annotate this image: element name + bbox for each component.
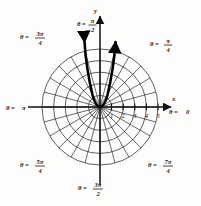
angle-label-pi-over-2-theta: θ = (77, 20, 86, 27)
angle-label-3pi-over-2-theta: θ = (78, 184, 87, 191)
angle-label-pi-over-4-denominator: 4 (165, 46, 170, 53)
angle-label-3pi-over-2-denominator: 2 (95, 190, 100, 197)
polar-chart-svg: 1 2 3 4 5 y x θ = π 2 θ = 3π 4 (0, 0, 201, 206)
angle-label-5pi-over-4: θ = 5π 4 (20, 158, 45, 174)
x-axis-label: x (171, 95, 176, 103)
angle-label-7pi-over-4: θ = 7π 4 (148, 158, 173, 174)
angle-label-5pi-over-4-denominator: 4 (37, 167, 42, 174)
radial-tick-label-4: 4 (145, 112, 149, 119)
angle-label-pi-value: π (22, 104, 26, 111)
angle-label-pi-over-4: θ = π 4 (150, 37, 172, 53)
angle-label-7pi-over-4-denominator: 4 (165, 167, 170, 174)
angle-label-0-value: 0 (186, 108, 190, 115)
angle-label-5pi-over-4-theta: θ = (20, 161, 29, 168)
angle-label-3pi-over-4-denominator: 4 (37, 39, 42, 46)
polar-plot-figure: 1 2 3 4 5 y x θ = π 2 θ = 3π 4 (0, 0, 201, 206)
radial-tick-label-3: 3 (132, 112, 137, 119)
angle-label-pi-over-2-denominator: 2 (90, 26, 95, 33)
angle-label-7pi-over-4-theta: θ = (148, 161, 157, 168)
angle-label-3pi-over-2-numerator: 3π (94, 181, 102, 188)
angle-label-3pi-over-4-theta: θ = (20, 33, 29, 40)
angle-label-0: θ = 0 (169, 108, 190, 115)
angle-label-5pi-over-4-numerator: 5π (37, 158, 44, 165)
angle-label-pi-theta: θ = (6, 104, 15, 111)
angle-label-7pi-over-4-numerator: 7π (165, 158, 172, 165)
radial-tick-label-2: 2 (122, 112, 126, 119)
radial-tick-label-1: 1 (110, 112, 113, 119)
y-axis-label: y (93, 7, 98, 15)
angle-label-pi: θ = π (6, 104, 26, 111)
angle-label-pi-over-2-numerator: π (91, 17, 95, 24)
angle-label-pi-over-4-numerator: π (166, 37, 170, 44)
angle-label-3pi-over-4-numerator: 3π (36, 30, 44, 37)
axis-name-labels: y x (93, 7, 176, 103)
angle-label-3pi-over-4: θ = 3π 4 (20, 30, 45, 46)
radial-tick-label-5: 5 (156, 112, 160, 119)
angle-label-pi-over-2: θ = π 2 (77, 17, 97, 33)
angle-label-3pi-over-2: θ = 3π 2 (78, 181, 103, 197)
angle-label-0-theta: θ = (169, 108, 178, 115)
angle-label-pi-over-4-theta: θ = (150, 40, 159, 47)
